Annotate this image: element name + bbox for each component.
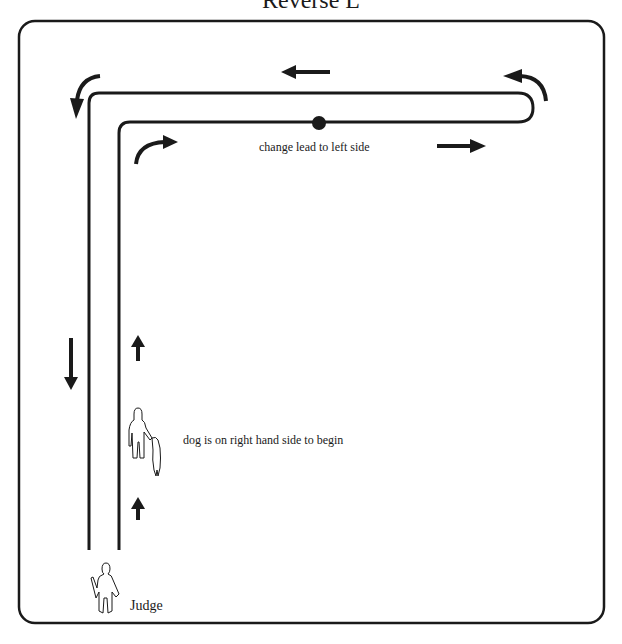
judge-label: Judge [130, 598, 163, 614]
change-lead-marker-icon [312, 116, 326, 130]
curved-arrow-up-left-icon [503, 69, 546, 101]
course-diagram [0, 0, 622, 644]
ring-frame [19, 21, 604, 623]
handler-with-dog-icon [129, 408, 161, 476]
arrow-down-icon [64, 338, 78, 390]
judge-icon [91, 563, 119, 613]
dog-start-label: dog is on right hand side to begin [183, 433, 343, 448]
arrow-left-icon [281, 65, 330, 79]
course-path-inner [119, 122, 518, 550]
arrow-right-icon [437, 139, 486, 153]
curved-arrow-down-icon [70, 76, 100, 119]
change-lead-label: change lead to left side [259, 140, 370, 155]
arrow-up-icon [131, 335, 145, 361]
arrow-up-icon [131, 497, 145, 520]
course-path-outer [89, 93, 533, 550]
curved-arrow-right-icon [136, 135, 178, 164]
